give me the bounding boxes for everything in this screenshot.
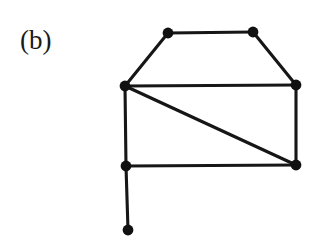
figure-panel: (b)	[0, 0, 318, 239]
graph-diagram	[0, 0, 318, 239]
graph-vertex-bottom-right	[291, 160, 302, 171]
graph-edge-upper-right-slope	[253, 32, 296, 85]
graph-edge-diagonal	[125, 86, 296, 165]
graph-vertex-bottom-left	[121, 161, 132, 172]
graph-vertex-left-middle	[120, 81, 131, 92]
graph-vertex-pendant-bottom	[123, 225, 134, 236]
graph-edge-upper-left-slope	[125, 33, 168, 86]
graph-edge-top-edge	[168, 32, 253, 33]
graph-edge-left-vertical	[125, 86, 126, 166]
graph-edge-middle-horizontal	[125, 85, 296, 86]
edge-layer	[125, 32, 296, 230]
graph-vertex-top-left	[163, 28, 174, 39]
graph-vertex-right-middle	[291, 80, 302, 91]
graph-vertex-top-right	[248, 27, 259, 38]
graph-edge-bottom-horizontal	[126, 165, 296, 166]
graph-edge-pendant-edge	[126, 166, 128, 230]
